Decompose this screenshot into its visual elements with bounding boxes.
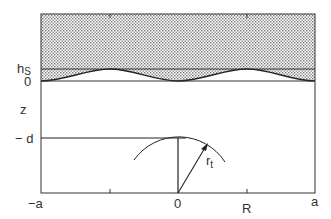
label-a: a <box>311 194 319 209</box>
label-minus-a: −a <box>28 196 44 211</box>
arrowhead-icon <box>201 143 208 151</box>
label-rt: rt <box>206 153 213 170</box>
diagram: hS 0 z − d −a 0 R a rt <box>0 0 331 219</box>
label-z-axis: z <box>20 102 27 117</box>
label-R: R <box>242 201 251 216</box>
label-minus-d: − d <box>15 131 33 146</box>
label-zero-x: 0 <box>174 196 181 211</box>
radius-arrow <box>178 146 206 193</box>
stippled-layer <box>41 14 315 81</box>
label-zero-z: 0 <box>24 74 31 89</box>
